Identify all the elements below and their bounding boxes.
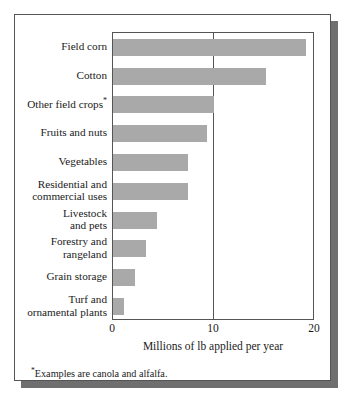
- bar: [113, 298, 124, 315]
- bar-row: [113, 263, 313, 292]
- footnote-text: Examples are canola and alfalfa.: [35, 368, 168, 379]
- category-label: Other field crops*: [0, 90, 107, 119]
- bar: [113, 240, 146, 257]
- footnote-ref-marker: *: [103, 96, 107, 105]
- x-axis-tick-label: 0: [109, 321, 115, 335]
- category-label: Cotton: [0, 61, 107, 90]
- category-label: Fruits and nuts: [0, 118, 107, 147]
- category-label-line: Forestry and: [51, 235, 107, 248]
- category-label-line: Cotton: [77, 69, 107, 82]
- bar: [113, 68, 266, 85]
- x-axis-title: Millions of lb applied per year: [112, 339, 314, 353]
- bar: [113, 125, 207, 142]
- bar: [113, 39, 306, 56]
- category-label-line: and pets: [70, 219, 107, 232]
- bar: [113, 154, 188, 171]
- bar: [113, 212, 157, 229]
- bar-row: [113, 119, 313, 148]
- category-label: Grain storage: [0, 262, 107, 291]
- figure-frame: Field cornCottonOther field crops*Fruits…: [14, 14, 331, 381]
- x-axis-ticks: 01020: [112, 321, 314, 337]
- category-label-line: Residential and: [38, 178, 107, 191]
- figure-footnote: *Examples are canola and alfalfa.: [31, 367, 167, 380]
- bar-row: [113, 292, 313, 321]
- category-label-line: Fruits and nuts: [40, 126, 107, 139]
- plot-area: [112, 32, 314, 320]
- bar-row: [113, 177, 313, 206]
- category-label-line: Livestock: [63, 207, 107, 220]
- bar-row: [113, 235, 313, 264]
- x-axis-tick-label: 10: [207, 321, 219, 335]
- category-label: Forestry andrangeland: [0, 234, 107, 263]
- bar: [113, 96, 214, 113]
- category-label-line: Turf and: [69, 293, 107, 306]
- bar: [113, 269, 135, 286]
- bar-row: [113, 62, 313, 91]
- bar-row: [113, 91, 313, 120]
- category-label: Vegetables: [0, 147, 107, 176]
- category-label: Residential andcommercial uses: [0, 176, 107, 205]
- category-label-line: Other field crops*: [27, 98, 107, 111]
- figure-root: Field cornCottonOther field crops*Fruits…: [0, 0, 349, 405]
- bar-row: [113, 33, 313, 62]
- x-axis-tick-label: 20: [308, 321, 320, 335]
- category-label: Livestockand pets: [0, 205, 107, 234]
- category-label-line: Grain storage: [46, 270, 107, 283]
- category-label-line: Field corn: [61, 40, 107, 53]
- category-label-line: Vegetables: [59, 155, 107, 168]
- bar-row: [113, 206, 313, 235]
- category-label-line: commercial uses: [32, 190, 107, 203]
- bar-row: [113, 148, 313, 177]
- category-axis-labels: Field cornCottonOther field crops*Fruits…: [15, 32, 110, 320]
- category-label: Field corn: [0, 32, 107, 61]
- bar-series: [113, 33, 313, 319]
- bar: [113, 183, 188, 200]
- category-label-line: rangeland: [63, 248, 107, 261]
- category-label: Turf andornamental plants: [0, 291, 107, 320]
- category-label-line: ornamental plants: [27, 306, 107, 319]
